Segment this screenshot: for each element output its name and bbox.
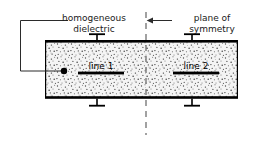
feed-point-dot (61, 68, 67, 74)
ground-stub-top-right (184, 33, 200, 41)
ground-stub-bottom-left (89, 99, 105, 107)
plane-of-symmetry-label: plane of symmetry (176, 13, 248, 34)
ground-stubs-bottom (89, 99, 200, 107)
left-wall (45, 41, 46, 98)
plane-of-symmetry-leader (147, 18, 172, 24)
right-wall (237, 41, 238, 98)
conductor-label-line2: line 2 (170, 61, 222, 71)
ground-stub-top-left (89, 33, 105, 41)
conductor-label-line1: line 1 (75, 61, 127, 71)
ground-stubs-top (89, 33, 200, 41)
ground-stub-bottom-right (184, 99, 200, 107)
conductor-bar-line2 (173, 72, 219, 75)
conductor-bar-line1 (78, 72, 124, 75)
top-ground-plane (45, 40, 238, 43)
transmission-line-diagram: homogeneous dielectric plane of symmetry… (0, 0, 253, 144)
homogeneous-dielectric-label: homogeneous dielectric (46, 13, 142, 34)
bottom-ground-plane (45, 96, 238, 99)
